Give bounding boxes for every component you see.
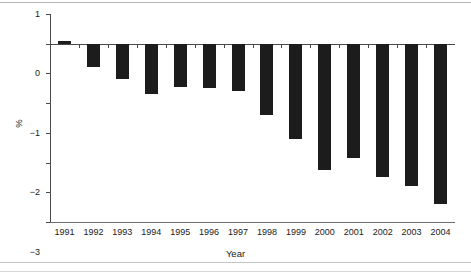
x-tick-label: 2004 xyxy=(431,228,451,237)
plot-bottom-frame xyxy=(50,222,455,223)
bar xyxy=(347,44,360,158)
bar xyxy=(116,44,129,80)
chart-page: % 10−1−2−3−4−5−6 19911992199319941995199… xyxy=(0,0,471,276)
bar xyxy=(145,44,158,95)
scan-edge-line-bottom xyxy=(0,262,471,263)
x-tick xyxy=(166,44,167,48)
x-tick-label: 1996 xyxy=(199,228,219,237)
y-tick: −1 xyxy=(46,73,50,74)
x-tick-label: 2001 xyxy=(344,228,364,237)
x-tick xyxy=(195,44,196,48)
x-tick-label: 1993 xyxy=(112,228,132,237)
x-tick xyxy=(224,44,225,48)
x-tick xyxy=(368,44,369,48)
y-tick: 0 xyxy=(46,44,50,45)
y-tick-label: 1 xyxy=(35,10,40,19)
bar xyxy=(232,44,245,92)
y-axis-title: % xyxy=(13,119,24,127)
bar xyxy=(58,41,71,44)
plot-area: 10−1−2−3−4−5−6 xyxy=(50,14,455,222)
bar xyxy=(174,44,187,87)
bar xyxy=(434,44,447,204)
bar xyxy=(203,44,216,89)
bar xyxy=(87,44,100,68)
x-tick-label: 1994 xyxy=(141,228,161,237)
x-tick-label: 1991 xyxy=(54,228,74,237)
scan-edge-line-top xyxy=(0,2,471,3)
x-tick xyxy=(426,44,427,48)
bar xyxy=(289,44,302,139)
y-tick-label: −1 xyxy=(30,128,40,137)
y-tick: 1 xyxy=(46,14,50,15)
y-axis-line xyxy=(50,14,51,222)
x-tick xyxy=(281,44,282,48)
x-tick-label: 1999 xyxy=(286,228,306,237)
x-tick-label: 1997 xyxy=(228,228,248,237)
bar xyxy=(260,44,273,115)
y-tick: −2 xyxy=(46,103,50,104)
y-tick-label: −2 xyxy=(30,188,40,197)
scan-edge-line-bottom-secondary xyxy=(0,271,471,272)
x-tick xyxy=(108,44,109,48)
bar xyxy=(405,44,418,187)
y-tick: −5 xyxy=(46,192,50,193)
x-axis-title: Year xyxy=(0,248,471,259)
x-tick-label: 2000 xyxy=(315,228,335,237)
y-tick: −6 xyxy=(46,222,50,223)
bar xyxy=(376,44,389,178)
x-tick-label: 1998 xyxy=(257,228,277,237)
y-tick: −4 xyxy=(46,163,50,164)
x-tick xyxy=(253,44,254,48)
x-tick-label: 1995 xyxy=(170,228,190,237)
y-tick-label: 0 xyxy=(35,69,40,78)
x-tick-label: 2002 xyxy=(373,228,393,237)
x-tick xyxy=(397,44,398,48)
x-tick xyxy=(137,44,138,48)
x-tick xyxy=(79,44,80,48)
y-tick: −3 xyxy=(46,133,50,134)
bar xyxy=(318,44,331,170)
x-tick-label: 2003 xyxy=(402,228,422,237)
x-tick-label: 1992 xyxy=(83,228,103,237)
x-tick xyxy=(339,44,340,48)
x-tick xyxy=(310,44,311,48)
